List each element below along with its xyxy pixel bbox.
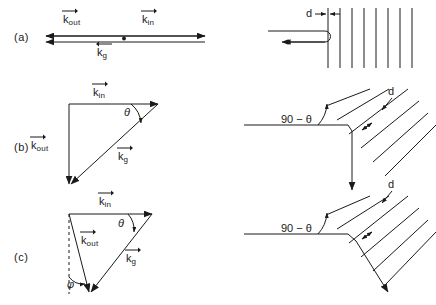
label-90-minus-theta-c: 90 − θ (281, 223, 312, 234)
vector-arrow-icon (117, 145, 133, 151)
label-k-in-b-symbol: k (93, 86, 99, 98)
label-k-g-b-symbol: k (118, 150, 124, 162)
label-k-out-a: kout (63, 14, 81, 27)
vector-arrow-icon (141, 8, 157, 14)
vector-arrow-icon (125, 247, 141, 253)
label-k-out-c-subscript: out (87, 239, 99, 248)
label-k-g-c: kg (126, 253, 136, 266)
vector-arrow-icon (92, 81, 108, 87)
label-k-g-b: kg (118, 151, 128, 164)
figure-root: (a) (b) (c) kout kin kg d (0, 0, 436, 305)
label-k-out-a-subscript: out (69, 18, 81, 27)
panel-b-grating (244, 89, 436, 190)
label-k-in-a-subscript: in (148, 18, 155, 27)
label-k-out-c-symbol: k (81, 234, 87, 246)
vector-arrow-icon (30, 134, 46, 140)
label-k-in-c: kin (99, 196, 111, 209)
vector-arrow-icon (98, 190, 114, 196)
panel-tag-c: (c) (14, 252, 28, 263)
label-k-in-b-subscript: in (99, 91, 106, 100)
vector-arrow-icon (62, 8, 78, 14)
panel-c-vector-diagram (69, 214, 152, 294)
panel-a-grating (268, 8, 412, 68)
label-90-minus-theta-b: 90 − θ (281, 114, 312, 125)
label-k-in-c-symbol: k (99, 195, 105, 207)
figure-artwork (0, 0, 436, 305)
label-k-out-a-symbol: k (63, 13, 69, 25)
label-k-in-a-symbol: k (142, 13, 148, 25)
label-k-out-b-subscript: out (37, 144, 49, 153)
vector-arrow-icon (80, 229, 96, 235)
label-k-g-c-subscript: g (132, 257, 137, 266)
label-k-in-a: kin (142, 14, 154, 27)
label-k-g-c-symbol: k (126, 252, 132, 264)
label-k-in-c-subscript: in (105, 200, 112, 209)
label-theta-c: θ (118, 218, 124, 229)
panel-a-vector-diagram (46, 36, 205, 42)
label-d-a: d (306, 8, 312, 19)
label-k-out-c: kout (81, 235, 99, 248)
label-k-in-b: kin (93, 87, 105, 100)
vector-arrow-left-icon (96, 41, 112, 47)
label-d-c: d (388, 179, 394, 190)
panel-b-vector-diagram (69, 104, 158, 184)
label-k-out-b-symbol: k (31, 139, 37, 151)
label-phi-c: φ (67, 279, 74, 290)
panel-c-grating (244, 191, 436, 292)
label-k-g-a-subscript: g (103, 51, 108, 60)
label-d-b: d (388, 86, 394, 97)
panel-tag-a: (a) (14, 32, 29, 43)
label-k-g-a: kg (97, 47, 107, 60)
panel-tag-b: (b) (14, 142, 29, 153)
label-k-g-a-symbol: k (97, 46, 103, 58)
label-k-out-b: kout (31, 140, 49, 153)
label-theta-b: θ (124, 107, 130, 118)
label-k-g-b-subscript: g (124, 155, 129, 164)
